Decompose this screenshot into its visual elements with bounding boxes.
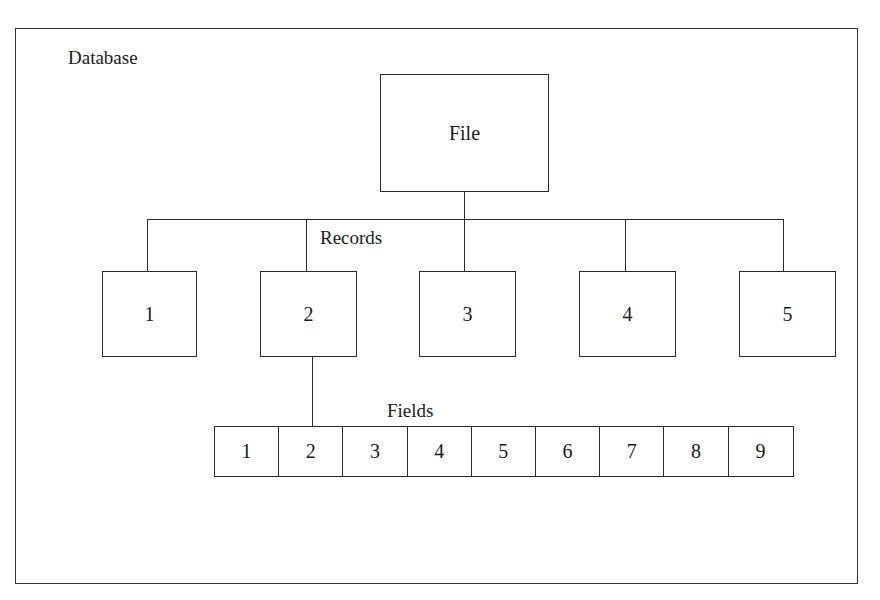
records-bus-line: [147, 219, 784, 220]
fields-row: 1 2 3 4 5 6 7 8 9: [214, 426, 794, 477]
fields-label: Fields: [387, 400, 433, 422]
field-cell-5: 5: [472, 427, 536, 476]
field-cell-4: 4: [408, 427, 472, 476]
field-cell-8: 8: [664, 427, 728, 476]
records-label: Records: [320, 227, 382, 249]
file-to-records-connector: [464, 191, 465, 271]
field-cell-7: 7: [600, 427, 664, 476]
field-cell-1: 1: [215, 427, 279, 476]
field-cell-9: 9: [729, 427, 793, 476]
record-node-3: 3: [419, 271, 516, 357]
record-2-connector: [306, 219, 307, 271]
record-node-2: 2: [260, 271, 357, 357]
file-node: File: [380, 74, 549, 192]
field-cell-6: 6: [536, 427, 600, 476]
record-5-connector: [783, 219, 784, 271]
record-to-fields-connector: [312, 357, 313, 427]
file-label: File: [449, 122, 480, 145]
record-1-connector: [147, 219, 148, 271]
record-4-connector: [625, 219, 626, 271]
record-node-4: 4: [579, 271, 676, 357]
record-label: 2: [304, 303, 314, 326]
record-node-1: 1: [102, 271, 197, 357]
record-node-5: 5: [739, 271, 836, 357]
record-label: 5: [783, 303, 793, 326]
field-cell-3: 3: [343, 427, 407, 476]
record-label: 1: [145, 303, 155, 326]
field-cell-2: 2: [279, 427, 343, 476]
record-label: 4: [623, 303, 633, 326]
database-label: Database: [68, 47, 138, 69]
record-label: 3: [463, 303, 473, 326]
